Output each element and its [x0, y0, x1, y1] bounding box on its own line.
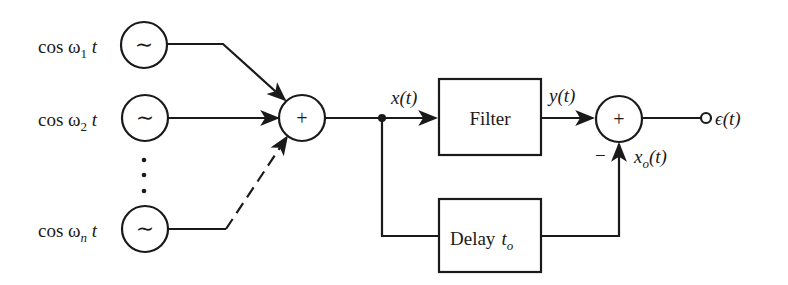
ellipsis-dots — [142, 158, 147, 194]
filter-label: Filter — [469, 108, 511, 129]
line-to-delay — [382, 118, 439, 236]
sine-wave-icon: ∼ — [136, 216, 154, 241]
block-diagram: cos ω1 t cos ω2 t cos ωn t ∼ ∼ ∼ + x(t) … — [0, 0, 788, 285]
arrow-osc1-to-summer — [167, 44, 285, 100]
summing-junction-1: + — [279, 95, 325, 141]
plus-sign: + — [613, 108, 624, 130]
minus-sign: − — [595, 145, 606, 166]
oscillator-n: ∼ — [122, 206, 168, 252]
sine-wave-icon: ∼ — [135, 32, 153, 57]
filter-block: Filter — [439, 79, 541, 155]
oscillator-2: ∼ — [122, 95, 168, 141]
source-label-1: cos ω1 t — [38, 36, 98, 61]
dashed-arrow-oscn-to-summer — [226, 137, 287, 229]
sine-wave-icon: ∼ — [136, 105, 154, 130]
signal-x-label: x(t) — [390, 87, 417, 109]
plus-sign: + — [296, 107, 307, 129]
signal-epsilon-label: ϵ(t) — [715, 108, 741, 130]
delay-block: Delayto — [439, 199, 541, 272]
arrow-delay-to-summer2 — [541, 144, 619, 236]
signal-y-label: y(t) — [547, 85, 575, 107]
oscillator-1: ∼ — [121, 22, 167, 68]
source-label-n: cos ωn t — [38, 220, 98, 245]
signal-xo-label: xo(t) — [633, 146, 667, 171]
summing-junction-2: + — [596, 96, 642, 142]
source-label-2: cos ω2 t — [38, 109, 98, 134]
output-terminal — [701, 113, 711, 123]
